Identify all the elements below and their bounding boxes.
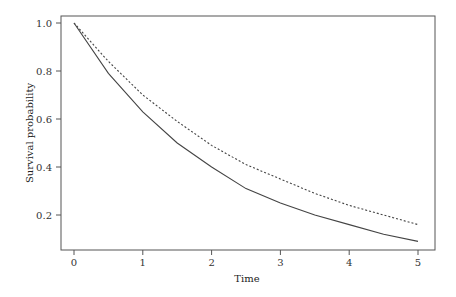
y-tick-label: 0.4 bbox=[36, 162, 52, 173]
y-axis: 0.20.40.60.81.0 bbox=[36, 18, 61, 221]
plot-frame bbox=[61, 16, 435, 250]
y-tick-label: 1.0 bbox=[36, 18, 52, 29]
x-tick-label: 1 bbox=[140, 257, 146, 268]
x-tick-label: 3 bbox=[277, 257, 283, 268]
x-tick-label: 0 bbox=[71, 257, 77, 268]
dotted-curve bbox=[74, 23, 418, 225]
y-tick-label: 0.6 bbox=[36, 114, 52, 125]
y-tick-label: 0.8 bbox=[36, 66, 52, 77]
x-tick-label: 4 bbox=[346, 257, 352, 268]
survival-chart: 012345 0.20.40.60.81.0 Time Survival pro… bbox=[0, 0, 456, 297]
x-tick-label: 2 bbox=[208, 257, 214, 268]
x-axis-label: Time bbox=[234, 273, 259, 284]
plot-lines bbox=[74, 23, 418, 241]
y-tick-label: 0.2 bbox=[36, 210, 52, 221]
solid-curve bbox=[74, 23, 418, 241]
x-tick-label: 5 bbox=[415, 257, 421, 268]
x-axis: 012345 bbox=[71, 250, 421, 268]
y-axis-label: Survival probability bbox=[24, 83, 35, 183]
